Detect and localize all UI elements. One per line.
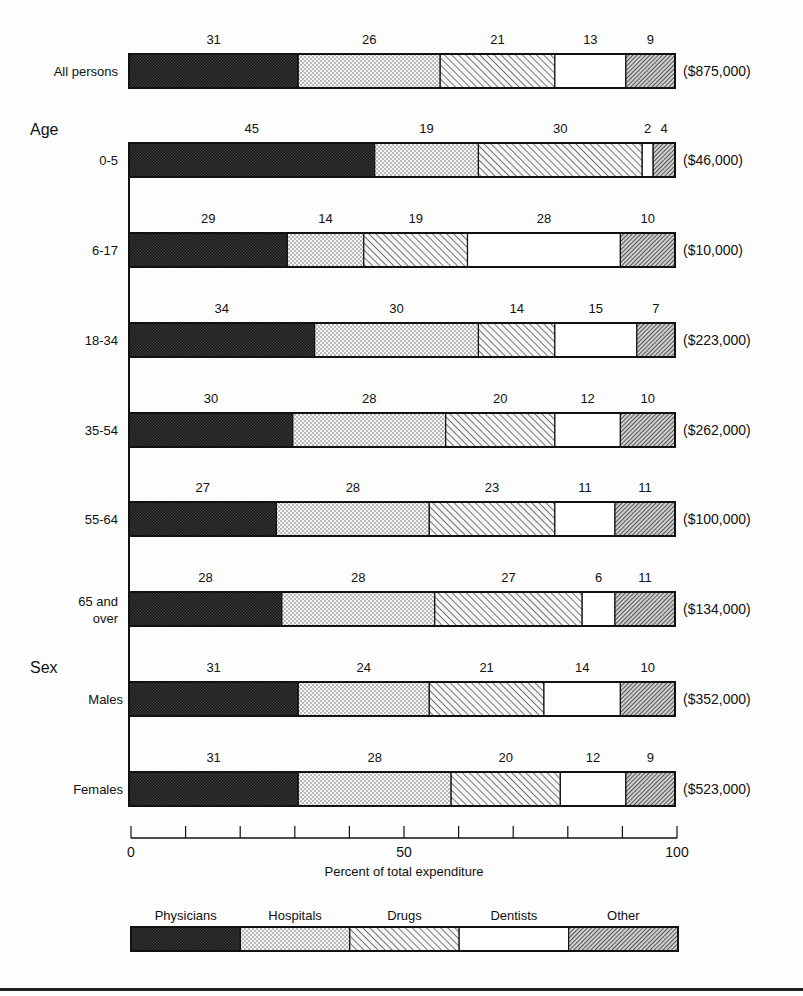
bar-segment-drugs [429, 502, 555, 536]
bar-segment-other [620, 413, 675, 447]
x-axis-title: Percent of total expenditure [325, 864, 484, 879]
bar-segment-physicians [129, 413, 293, 447]
bar-segment-physicians [129, 54, 298, 88]
category-label: 65 and [78, 594, 118, 609]
legend-label-hospitals: Hospitals [268, 908, 322, 923]
category-label: over [93, 611, 119, 626]
value-label-dentists: 12 [586, 750, 600, 765]
row-total-label: ($523,000) [683, 781, 751, 797]
row-total-label: ($100,000) [683, 511, 751, 527]
bar-row-0-5: 0-545193024($46,000) [99, 121, 743, 177]
value-label-dentists: 14 [575, 660, 589, 675]
value-label-drugs: 30 [553, 121, 567, 136]
bar-segment-physicians [129, 592, 282, 626]
bar-segment-physicians [129, 233, 287, 267]
value-label-physicians: 31 [206, 750, 220, 765]
bar-segment-dentists [555, 54, 626, 88]
value-label-drugs: 14 [509, 301, 523, 316]
row-total-label: ($875,000) [683, 63, 751, 79]
value-label-hospitals: 28 [351, 570, 365, 585]
legend-item-other: Other [569, 908, 678, 951]
row-total-label: ($10,000) [683, 242, 743, 258]
legend-swatch-dentists [459, 927, 568, 951]
legend-label-drugs: Drugs [387, 908, 422, 923]
legend-swatch-hospitals [240, 927, 349, 951]
bar-segment-drugs [478, 143, 642, 177]
legend-swatch-drugs [350, 927, 459, 951]
bar-segment-hospitals [375, 143, 479, 177]
bar-segment-other [615, 502, 675, 536]
bar-segment-physicians [129, 143, 375, 177]
value-label-drugs: 27 [501, 570, 515, 585]
category-label: 6-17 [92, 243, 118, 258]
group-label-sex: Sex [30, 659, 58, 676]
bar-segment-hospitals [282, 592, 435, 626]
value-label-physicians: 29 [201, 211, 215, 226]
legend-label-dentists: Dentists [490, 908, 537, 923]
value-label-other: 11 [638, 480, 652, 495]
value-label-dentists: 6 [595, 570, 602, 585]
category-label: 0-5 [99, 153, 118, 168]
bar-segment-dentists [555, 502, 615, 536]
category-label: 18-34 [85, 333, 118, 348]
stacked-bar-chart: AgeSex All persons312621139($875,000)0-5… [0, 0, 803, 996]
value-label-physicians: 34 [215, 301, 229, 316]
legend-item-hospitals: Hospitals [240, 908, 349, 951]
bar-segment-drugs [478, 323, 554, 357]
value-label-dentists: 11 [578, 480, 592, 495]
value-label-drugs: 20 [499, 750, 513, 765]
value-label-other: 10 [640, 211, 654, 226]
value-label-drugs: 21 [490, 32, 504, 47]
value-label-other: 7 [652, 301, 659, 316]
bar-row-females: Females312820129($523,000) [73, 750, 751, 806]
bar-segment-dentists [560, 772, 626, 806]
legend-item-drugs: Drugs [350, 908, 459, 951]
bar-segment-other [637, 323, 675, 357]
bar-segment-hospitals [298, 682, 429, 716]
legend-item-dentists: Dentists [459, 908, 568, 951]
row-total-label: ($223,000) [683, 332, 751, 348]
bar-segment-other [620, 682, 675, 716]
bar-segment-other [620, 233, 675, 267]
value-label-drugs: 23 [485, 480, 499, 495]
bar-segment-drugs [364, 233, 468, 267]
bar-segment-hospitals [298, 54, 440, 88]
page-bottom-rule [0, 988, 803, 991]
legend: PhysiciansHospitalsDrugsDentistsOther [131, 908, 678, 951]
value-label-drugs: 20 [493, 391, 507, 406]
legend-label-physicians: Physicians [155, 908, 218, 923]
x-tick-label: 50 [396, 844, 412, 860]
value-label-drugs: 19 [408, 211, 422, 226]
bar-row-males: Males3124211410($352,000) [88, 660, 750, 716]
value-label-other: 4 [660, 121, 667, 136]
bar-segment-hospitals [287, 233, 363, 267]
bar-segment-other [626, 772, 675, 806]
x-axis: 050100Percent of total expenditure [127, 826, 689, 879]
bar-segment-other [653, 143, 675, 177]
legend-item-physicians: Physicians [131, 908, 240, 951]
bar-segment-dentists [582, 592, 615, 626]
value-label-other: 9 [647, 750, 654, 765]
value-label-hospitals: 28 [367, 750, 381, 765]
value-label-dentists: 12 [580, 391, 594, 406]
value-label-other: 11 [638, 570, 652, 585]
value-label-dentists: 13 [583, 32, 597, 47]
bar-segment-hospitals [276, 502, 429, 536]
bar-segment-physicians [129, 772, 298, 806]
category-label: Females [73, 782, 123, 797]
value-label-physicians: 31 [206, 660, 220, 675]
bar-row-35-54: 35-543028201210($262,000) [85, 391, 751, 447]
bar-segment-drugs [440, 54, 555, 88]
bar-segment-dentists [555, 413, 621, 447]
x-tick-label: 100 [665, 844, 689, 860]
value-label-other: 10 [640, 391, 654, 406]
value-label-physicians: 45 [245, 121, 259, 136]
category-label: All persons [54, 64, 119, 79]
bar-segment-drugs [446, 413, 555, 447]
value-label-hospitals: 19 [419, 121, 433, 136]
row-total-label: ($352,000) [683, 691, 751, 707]
group-label-age: Age [30, 121, 59, 138]
value-label-physicians: 31 [206, 32, 220, 47]
bar-segment-physicians [129, 682, 298, 716]
value-label-dentists: 2 [644, 121, 651, 136]
